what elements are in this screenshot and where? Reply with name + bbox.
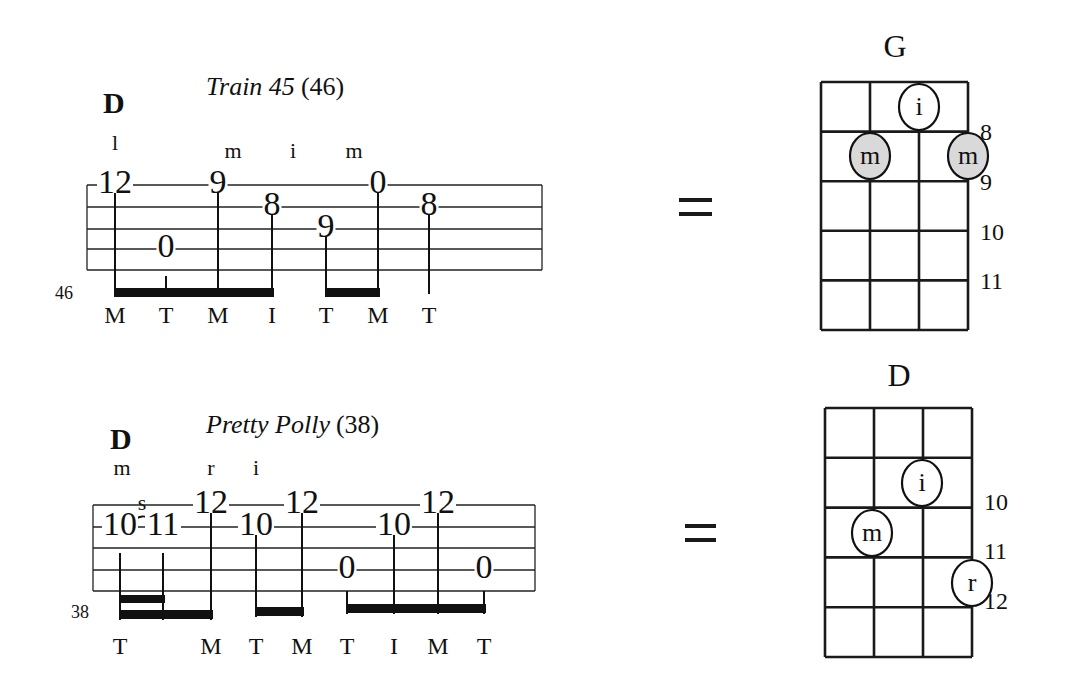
beam bbox=[119, 595, 165, 603]
dot-finger-label: i bbox=[915, 92, 922, 121]
song-title: Pretty Polly bbox=[205, 410, 330, 439]
finger-dot: i bbox=[902, 460, 942, 506]
picking-finger: I bbox=[268, 302, 276, 328]
fret-position-label: 10 bbox=[984, 489, 1008, 515]
fret-number: 10 bbox=[103, 505, 137, 542]
fret-number: 9 bbox=[210, 163, 227, 200]
example-train-45: Train 45(46) D 46 12lM0T9mM8I9iT0mM8T G … bbox=[55, 28, 1004, 330]
picking-finger: M bbox=[291, 633, 312, 659]
tab-note: 10I bbox=[376, 505, 412, 659]
dot-finger-label: m bbox=[958, 141, 978, 170]
chord-diagram-name: G bbox=[883, 28, 906, 64]
picking-finger: T bbox=[159, 302, 174, 328]
picking-finger: M bbox=[367, 302, 388, 328]
finger-annotation: r bbox=[207, 455, 215, 480]
finger-annotation: i bbox=[253, 455, 259, 480]
fret-position-label: 11 bbox=[984, 538, 1007, 564]
picking-finger: M bbox=[427, 633, 448, 659]
tab-notes: 10mT1112rM10iT12M0T10I12M0T bbox=[102, 455, 494, 659]
tab-note: 12M bbox=[420, 483, 456, 659]
equals-sign bbox=[685, 524, 716, 542]
equals-sign bbox=[679, 198, 712, 216]
tab-note: 0T bbox=[338, 548, 357, 659]
chord-symbol: D bbox=[103, 86, 125, 119]
beam bbox=[115, 288, 274, 297]
chord-diagram-d: D 101112imr bbox=[825, 357, 1008, 657]
finger-annotation: m bbox=[345, 138, 362, 163]
picking-finger: M bbox=[104, 302, 125, 328]
fret-number: 12 bbox=[194, 483, 228, 520]
tab-note: 12rM bbox=[193, 455, 229, 659]
beam bbox=[346, 604, 486, 613]
picking-finger: T bbox=[422, 302, 437, 328]
tab-note: 10iT bbox=[238, 455, 274, 659]
picking-finger: T bbox=[319, 302, 334, 328]
tab-note: 0T bbox=[475, 548, 494, 659]
fret-number: 8 bbox=[264, 185, 281, 222]
picking-finger: M bbox=[207, 302, 228, 328]
chord-diagram-g: G 891011imm bbox=[821, 28, 1004, 330]
measure-reference: (38) bbox=[336, 410, 379, 439]
dot-finger-label: m bbox=[860, 141, 880, 170]
fret-position-label: 11 bbox=[980, 268, 1003, 294]
fret-number: 12 bbox=[285, 483, 319, 520]
tab-note: 8T bbox=[420, 185, 439, 328]
fret-number: 0 bbox=[339, 548, 356, 585]
dot-finger-label: m bbox=[862, 518, 882, 547]
example-title: Train 45(46) bbox=[206, 72, 344, 101]
picking-finger: T bbox=[113, 633, 128, 659]
picking-finger: M bbox=[200, 633, 221, 659]
finger-annotation: i bbox=[290, 138, 296, 163]
finger-annotation: m bbox=[113, 455, 130, 480]
fret-number: 10 bbox=[239, 505, 273, 542]
tab-note: 0T bbox=[157, 227, 176, 328]
tab-note: 12M bbox=[284, 483, 320, 659]
picking-finger: T bbox=[249, 633, 264, 659]
picking-finger: T bbox=[340, 633, 355, 659]
fret-number: 8 bbox=[421, 185, 438, 222]
tab-note: 10mT bbox=[102, 455, 138, 659]
fret-number: 9 bbox=[318, 207, 335, 244]
fret-number: 0 bbox=[370, 163, 387, 200]
measure-reference: (46) bbox=[301, 72, 344, 101]
dot-finger-label: r bbox=[968, 568, 977, 597]
picking-finger: I bbox=[390, 633, 398, 659]
picking-finger: T bbox=[477, 633, 492, 659]
finger-dot: m bbox=[852, 510, 892, 556]
fret-number: 12 bbox=[421, 483, 455, 520]
chord-diagram-name: D bbox=[887, 357, 910, 393]
tab-note: 9iT bbox=[290, 138, 336, 328]
chord-symbol: D bbox=[110, 422, 132, 455]
example-pretty-polly: Pretty Polly(38) D 38 s 10mT1112rM10iT12… bbox=[71, 357, 1008, 659]
example-title: Pretty Polly(38) bbox=[205, 410, 379, 439]
tab-note: 0mM bbox=[345, 138, 388, 328]
fret-number: 0 bbox=[158, 227, 175, 264]
notation-canvas: Train 45(46) D 46 12lM0T9mM8I9iT0mM8T G … bbox=[0, 0, 1081, 695]
finger-dot: r bbox=[952, 560, 992, 606]
tab-staff bbox=[87, 185, 542, 270]
fret-number: 10 bbox=[377, 505, 411, 542]
tab-note: 9mM bbox=[207, 138, 241, 328]
tab-note: 8I bbox=[263, 185, 282, 328]
fret-number: 12 bbox=[98, 163, 132, 200]
finger-annotation: m bbox=[224, 138, 241, 163]
dot-finger-label: i bbox=[918, 468, 925, 497]
banjo-lesson-page: Train 45(46) D 46 12lM0T9mM8I9iT0mM8T G … bbox=[0, 0, 1081, 695]
finger-dot: m bbox=[850, 133, 890, 179]
fret-number: 0 bbox=[476, 548, 493, 585]
beam bbox=[255, 607, 304, 616]
fret-number: 11 bbox=[147, 505, 180, 542]
beam-group bbox=[115, 288, 380, 297]
finger-dot: i bbox=[899, 84, 939, 130]
song-title: Train 45 bbox=[206, 72, 295, 101]
finger-annotation: l bbox=[112, 130, 118, 155]
measure-number: 38 bbox=[71, 602, 89, 622]
slide-label: s bbox=[138, 490, 147, 515]
finger-dot: m bbox=[948, 133, 988, 179]
beam bbox=[326, 288, 380, 297]
fret-position-label: 10 bbox=[980, 219, 1004, 245]
beam bbox=[119, 610, 213, 619]
measure-number: 46 bbox=[55, 283, 73, 303]
